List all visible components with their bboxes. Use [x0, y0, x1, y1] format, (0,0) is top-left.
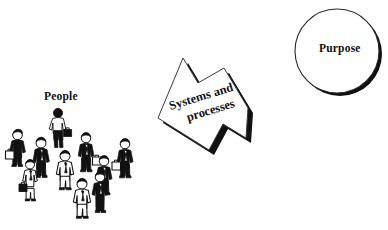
purpose-label: Purpose: [319, 42, 361, 54]
person-figure: [56, 150, 73, 189]
person-figure: [78, 133, 101, 172]
person-figure: [112, 139, 133, 178]
person-figure: [73, 178, 90, 218]
person-figure: [6, 129, 26, 166]
diagram-canvas: People: [0, 0, 388, 230]
person-figure: [49, 108, 71, 147]
systems-and-processes-arrow: Systems and processes: [152, 56, 262, 162]
people-label: People: [44, 90, 78, 102]
people-crowd-illustration: [0, 104, 150, 230]
